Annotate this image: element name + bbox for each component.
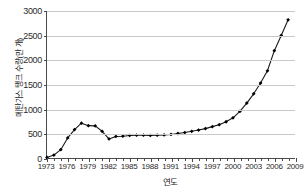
data-point-marker bbox=[190, 129, 194, 133]
y-tick-label: 3000 bbox=[8, 6, 42, 16]
y-tick-mark bbox=[44, 36, 47, 37]
x-tick-mark-minor bbox=[178, 158, 179, 161]
data-point-marker bbox=[197, 128, 201, 132]
series-polyline bbox=[47, 20, 288, 158]
y-tick-mark bbox=[44, 134, 47, 135]
x-tick-mark-minor bbox=[268, 158, 269, 161]
plot-area bbox=[46, 11, 295, 159]
x-tick-label: 1982 bbox=[100, 162, 117, 171]
gridline bbox=[47, 60, 295, 61]
x-tick-label: 1994 bbox=[183, 162, 200, 171]
x-axis-title: 연도 bbox=[46, 175, 295, 187]
x-tick-label: 1973 bbox=[38, 162, 55, 171]
y-tick-label: 2000 bbox=[8, 55, 42, 65]
x-tick-mark-minor bbox=[144, 158, 145, 161]
data-point-marker bbox=[210, 125, 214, 129]
x-tick-mark-minor bbox=[95, 158, 96, 161]
x-tick-mark-minor bbox=[75, 158, 76, 161]
x-tick-mark-minor bbox=[282, 158, 283, 161]
x-tick-label: 1988 bbox=[141, 162, 158, 171]
gridline bbox=[47, 110, 295, 111]
y-tick-label: 2500 bbox=[8, 31, 42, 41]
gridline bbox=[47, 134, 295, 135]
x-tick-mark-minor bbox=[123, 158, 124, 161]
x-tick-mark-minor bbox=[199, 158, 200, 161]
gridline bbox=[47, 85, 295, 86]
x-tick-mark-minor bbox=[248, 158, 249, 161]
x-tick-mark-minor bbox=[137, 158, 138, 161]
data-point-marker bbox=[286, 18, 290, 22]
x-tick-mark-minor bbox=[158, 158, 159, 161]
y-tick-mark bbox=[44, 110, 47, 111]
x-tick-label: 2009 bbox=[287, 162, 304, 171]
data-point-marker bbox=[204, 127, 208, 131]
x-tick-mark-minor bbox=[220, 158, 221, 161]
x-tick-mark-minor bbox=[206, 158, 207, 161]
y-tick-label: 1500 bbox=[8, 80, 42, 90]
y-tick-mark bbox=[44, 85, 47, 86]
y-tick-label: 1000 bbox=[8, 105, 42, 115]
x-tick-mark-minor bbox=[61, 158, 62, 161]
x-tick-mark-minor bbox=[82, 158, 83, 161]
x-tick-mark-minor bbox=[165, 158, 166, 161]
line-chart: 메탄가스 탱크 수량(만 개) 050010001500200025003000… bbox=[0, 0, 308, 195]
x-tick-mark-minor bbox=[102, 158, 103, 161]
gridline bbox=[47, 11, 295, 12]
data-point-marker bbox=[86, 124, 90, 128]
x-tick-label: 2006 bbox=[266, 162, 283, 171]
x-tick-mark-minor bbox=[227, 158, 228, 161]
x-tick-label: 1976 bbox=[58, 162, 75, 171]
x-tick-label: 2000 bbox=[224, 162, 241, 171]
x-tick-mark-minor bbox=[185, 158, 186, 161]
x-tick-label: 1985 bbox=[121, 162, 138, 171]
x-tick-mark-minor bbox=[116, 158, 117, 161]
x-tick-mark-minor bbox=[54, 158, 55, 161]
y-tick-mark bbox=[44, 11, 47, 12]
x-tick-label: 1991 bbox=[162, 162, 179, 171]
data-point-marker bbox=[272, 49, 276, 53]
x-tick-mark-minor bbox=[241, 158, 242, 161]
y-tick-label: 500 bbox=[8, 129, 42, 139]
y-tick-mark bbox=[44, 60, 47, 61]
x-tick-mark-minor bbox=[289, 158, 290, 161]
data-point-marker bbox=[217, 123, 221, 127]
x-tick-mark-minor bbox=[261, 158, 262, 161]
x-tick-label: 1979 bbox=[79, 162, 96, 171]
gridline bbox=[47, 36, 295, 37]
x-tick-label: 1997 bbox=[204, 162, 221, 171]
x-axis-tick-labels: 1973197619791982198519881991199419972000… bbox=[46, 162, 295, 174]
x-tick-label: 2003 bbox=[245, 162, 262, 171]
